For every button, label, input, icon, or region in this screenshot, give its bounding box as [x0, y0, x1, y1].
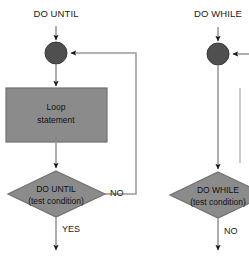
right-branch-no-label: NO	[224, 226, 238, 236]
left-decision-label-line1: DO UNTIL	[36, 184, 76, 194]
flowchart-svg: DO UNTIL DO WHILE Loop statement DO UNTI…	[0, 0, 249, 256]
left-loop-entry-node	[45, 42, 67, 64]
right-decision-diamond	[170, 172, 249, 218]
right-entry-label: DO WHILE	[194, 8, 242, 19]
left-branch-no-label: NO	[110, 188, 124, 198]
right-decision-label-line1: DO WHILE	[197, 185, 239, 195]
flowchart-canvas: DO UNTIL DO WHILE Loop statement DO UNTI…	[0, 0, 249, 256]
right-loop-entry-node	[207, 43, 229, 65]
left-process-label-line2: statement	[37, 115, 75, 125]
left-decision-label-line2: (test condition)	[28, 196, 84, 206]
right-decision-label-line2: (test condition)	[190, 197, 246, 207]
left-decision-diamond	[8, 171, 105, 217]
left-process-label-line1: Loop	[47, 102, 66, 112]
left-branch-yes-label: YES	[62, 224, 80, 234]
left-entry-label: DO UNTIL	[33, 8, 78, 19]
